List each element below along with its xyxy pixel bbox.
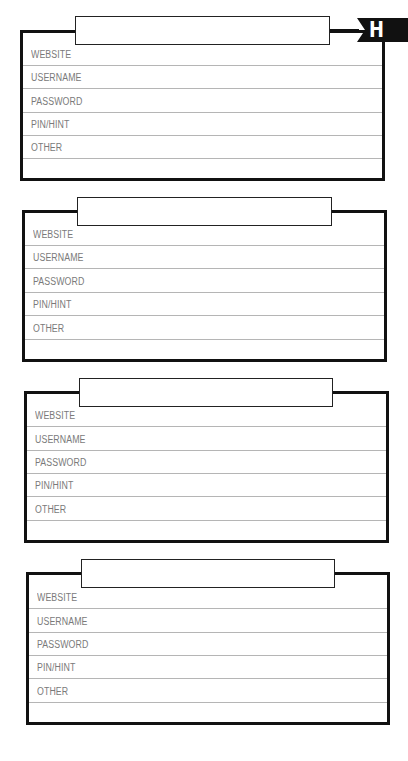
field-row-pin-hint[interactable]: PIN/HINT [27,474,386,497]
field-row-password[interactable]: PASSWORD [29,633,387,656]
field-label: PIN/HINT [33,299,71,310]
field-row-password[interactable]: PASSWORD [25,269,384,293]
field-label: OTHER [31,142,62,153]
field-label: PIN/HINT [31,119,69,130]
field-label: PASSWORD [35,457,86,468]
field-row-extra[interactable] [25,340,384,359]
field-label: PASSWORD [37,639,88,650]
field-row-website[interactable]: WEBSITE [29,586,387,609]
field-row-other[interactable]: OTHER [23,136,382,159]
field-label: USERNAME [37,616,88,627]
field-row-username[interactable]: USERNAME [23,66,382,89]
field-row-username[interactable]: USERNAME [27,427,386,451]
field-label: WEBSITE [31,49,71,60]
field-row-extra[interactable] [27,521,386,540]
field-row-username[interactable]: USERNAME [29,609,387,633]
field-row-pin-hint[interactable]: PIN/HINT [23,113,382,136]
field-label: OTHER [35,504,66,515]
field-label: USERNAME [35,434,86,445]
field-row-other[interactable]: OTHER [27,497,386,521]
entry-title-field[interactable] [79,378,333,407]
field-row-password[interactable]: PASSWORD [23,89,382,113]
field-row-other[interactable]: OTHER [29,679,387,703]
field-label: OTHER [37,686,68,697]
field-row-website[interactable]: WEBSITE [27,404,386,427]
field-label: USERNAME [31,72,82,83]
section-letter: H [369,18,384,42]
password-entry-card: WEBSITE USERNAME PASSWORD PIN/HINT OTHER [26,572,390,725]
field-row-password[interactable]: PASSWORD [27,451,386,474]
field-label: PIN/HINT [37,662,75,673]
field-row-extra[interactable] [23,159,382,178]
entry-title-field[interactable] [77,197,332,226]
field-row-website[interactable]: WEBSITE [25,223,384,246]
password-entry-card: WEBSITE USERNAME PASSWORD PIN/HINT OTHER [20,30,385,181]
password-entry-card: WEBSITE USERNAME PASSWORD PIN/HINT OTHER [24,391,389,543]
field-row-username[interactable]: USERNAME [25,246,384,269]
field-row-extra[interactable] [29,703,387,722]
field-label: WEBSITE [33,229,73,240]
field-row-other[interactable]: OTHER [25,316,384,340]
field-label: PIN/HINT [35,480,73,491]
field-label: PASSWORD [31,96,82,107]
field-row-pin-hint[interactable]: PIN/HINT [29,656,387,679]
section-tab-h: H [357,18,408,42]
field-label: WEBSITE [37,592,77,603]
entry-title-field[interactable] [81,559,335,588]
field-label: USERNAME [33,252,84,263]
field-label: WEBSITE [35,410,75,421]
password-entry-card: WEBSITE USERNAME PASSWORD PIN/HINT OTHER [22,210,387,362]
entry-title-field[interactable] [75,16,330,45]
field-label: OTHER [33,323,64,334]
field-label: PASSWORD [33,276,84,287]
field-row-pin-hint[interactable]: PIN/HINT [25,293,384,316]
tab-connector-line [329,29,359,32]
field-row-website[interactable]: WEBSITE [23,43,382,66]
